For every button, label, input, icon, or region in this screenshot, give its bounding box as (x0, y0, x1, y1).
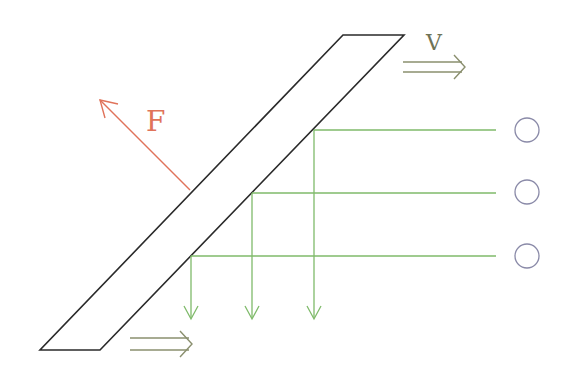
projection-lines (184, 130, 496, 319)
target-circles (515, 118, 539, 268)
physics-diagram: F V (0, 0, 574, 381)
force-arrow (100, 100, 190, 190)
bottom-double-arrow-icon (130, 331, 192, 357)
circle-3 (515, 244, 539, 268)
velocity-double-arrow-icon (403, 55, 465, 79)
velocity-label: V (425, 30, 443, 55)
force-label: F (146, 105, 165, 138)
circle-2 (515, 180, 539, 204)
circle-1 (515, 118, 539, 142)
